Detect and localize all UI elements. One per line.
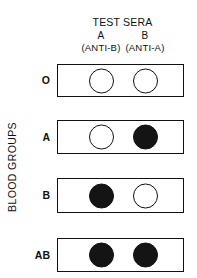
blood-groups-axis-label: BLOOD GROUPS: [6, 122, 18, 212]
slide-o: [57, 64, 184, 97]
row-label-a: A: [20, 131, 50, 143]
column-b-label: B: [120, 30, 170, 42]
filled-circle-icon: [133, 243, 158, 268]
slide-b: [57, 178, 184, 213]
test-sera-title: TEST SERA: [0, 16, 197, 28]
filled-circle-icon: [133, 125, 158, 150]
open-circle-icon: [133, 68, 158, 93]
column-b-sublabel: (ANTI-A): [120, 42, 170, 54]
slide-a: [57, 120, 184, 154]
filled-circle-icon: [89, 183, 114, 208]
row-label-ab: AB: [20, 249, 50, 261]
row-label-o: O: [20, 74, 50, 86]
slide-ab: [57, 238, 184, 272]
open-circle-icon: [133, 183, 158, 208]
open-circle-icon: [89, 125, 114, 150]
filled-circle-icon: [89, 243, 114, 268]
column-a-label: A: [76, 30, 126, 42]
open-circle-icon: [89, 68, 114, 93]
row-label-b: B: [20, 189, 50, 201]
column-a-sublabel: (ANTI-B): [76, 42, 126, 54]
